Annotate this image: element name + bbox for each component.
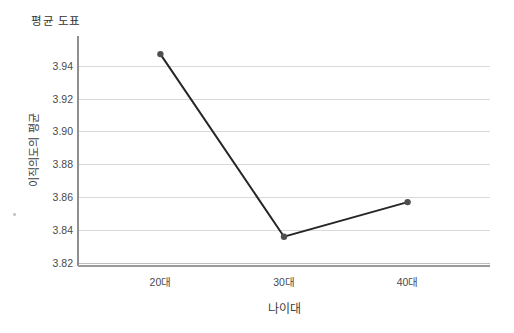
x-tick-label: 40대 (397, 274, 419, 289)
y-tick-label: 3.88 (3, 158, 73, 170)
chart-title: 평균 도표 (31, 12, 81, 28)
y-tick-label: 3.94 (3, 60, 73, 72)
x-axis-line (78, 265, 490, 267)
mean-line (160, 54, 407, 237)
y-tick-label: 3.90 (3, 125, 73, 137)
line-series (78, 36, 490, 263)
x-axis-title: 나이대 (268, 299, 301, 316)
stray-mark (13, 213, 16, 216)
plot-area (78, 36, 490, 263)
y-tick-label: 3.92 (3, 93, 73, 105)
y-tick-label: 3.86 (3, 191, 73, 203)
x-tick-label: 20대 (150, 274, 172, 289)
data-point-marker (404, 199, 410, 205)
data-point-marker (157, 51, 163, 57)
data-point-marker (281, 234, 287, 240)
y-tick-label: 3.84 (3, 224, 73, 236)
y-tick-label: 3.82 (3, 257, 73, 269)
mean-plot-chart: 평균 도표 이직의도의 평균 3.823.843.863.883.903.923… (0, 0, 514, 333)
gridline (78, 263, 490, 264)
x-tick-label: 30대 (273, 274, 295, 289)
y-axis-line (77, 36, 79, 266)
